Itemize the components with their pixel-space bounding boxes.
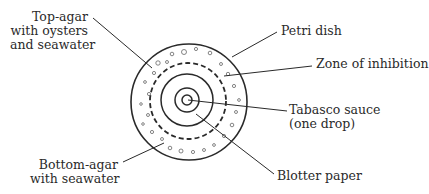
label-tabasco-line2: (one drop) <box>289 117 381 131</box>
leader-petri-dish <box>232 32 277 57</box>
label-tabasco-line1: Tabasco sauce <box>289 103 381 117</box>
label-bottom-agar-line1: Bottom-agar <box>30 158 118 172</box>
leader-bottom-agar <box>123 143 164 162</box>
inner-ring <box>175 88 199 112</box>
label-petri-dish: Petri dish <box>281 24 342 38</box>
label-bottom-agar: Bottom-agar with seawater <box>30 158 118 186</box>
label-top-agar-line1: Top-agar <box>10 10 88 24</box>
label-zone-of-inhibition: Zone of inhibition <box>316 57 428 71</box>
label-bottom-agar-line2: with seawater <box>30 172 118 186</box>
petri-dish-outline <box>131 44 247 160</box>
label-top-agar: Top-agar with oysters and seawater <box>10 10 88 52</box>
leader-tabasco <box>188 100 287 111</box>
label-blotter-paper: Blotter paper <box>277 169 362 183</box>
leader-top-agar <box>93 18 152 68</box>
label-tabasco-sauce: Tabasco sauce (one drop) <box>289 103 381 131</box>
leader-blotter-paper <box>196 114 274 174</box>
label-top-agar-line3: and seawater <box>10 38 88 52</box>
blotter-paper-ring <box>161 74 213 126</box>
label-top-agar-line2: with oysters <box>10 24 88 38</box>
